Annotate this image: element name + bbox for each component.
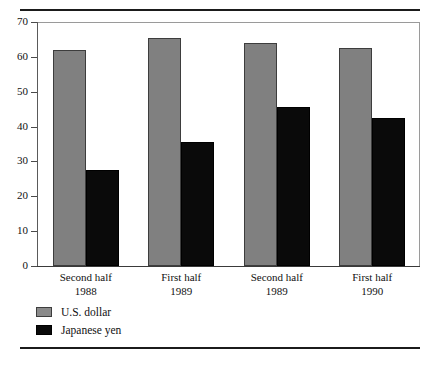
y-tick-mark bbox=[31, 161, 37, 162]
y-tick-mark bbox=[31, 92, 37, 93]
y-tick-mark bbox=[31, 22, 37, 23]
bar-us-dollar bbox=[53, 50, 86, 266]
x-category-label-period: First half bbox=[134, 270, 230, 284]
y-tick-label: 60 bbox=[4, 51, 28, 62]
bar-japanese-yen bbox=[372, 118, 405, 266]
bar-group bbox=[325, 22, 421, 266]
x-axis-category-labels: Second half1988First half1989Second half… bbox=[38, 270, 420, 304]
x-category-label-year: 1988 bbox=[38, 284, 134, 298]
bar-japanese-yen bbox=[181, 142, 214, 266]
legend-item-us-dollar: U.S. dollar bbox=[36, 303, 121, 321]
bar-group bbox=[38, 22, 134, 266]
x-category-label-period: First half bbox=[325, 270, 421, 284]
chart-legend: U.S. dollar Japanese yen bbox=[36, 303, 121, 339]
x-category-label: First half1990 bbox=[325, 270, 421, 298]
x-axis-line bbox=[37, 266, 420, 267]
y-tick-label: 40 bbox=[4, 121, 28, 132]
x-category-label-year: 1989 bbox=[134, 284, 230, 298]
legend-label-us-dollar: U.S. dollar bbox=[61, 306, 111, 318]
bar-chart-figure: 010203040506070 Second half1988First hal… bbox=[0, 0, 439, 366]
y-tick-mark bbox=[31, 196, 37, 197]
y-tick-mark bbox=[31, 266, 37, 267]
x-category-label-year: 1990 bbox=[325, 284, 421, 298]
x-category-label-period: Second half bbox=[229, 270, 325, 284]
y-tick-mark bbox=[31, 231, 37, 232]
y-tick-label: 70 bbox=[4, 16, 28, 27]
y-tick-label: 50 bbox=[4, 86, 28, 97]
gray-swatch-icon bbox=[36, 307, 52, 317]
bar-japanese-yen bbox=[277, 107, 310, 266]
legend-item-japanese-yen: Japanese yen bbox=[36, 321, 121, 339]
y-tick-label: 0 bbox=[4, 260, 28, 271]
bar-us-dollar bbox=[339, 48, 372, 266]
black-swatch-icon bbox=[36, 325, 52, 335]
bars-plot-area bbox=[38, 22, 420, 266]
x-category-label-period: Second half bbox=[38, 270, 134, 284]
y-tick-label: 20 bbox=[4, 190, 28, 201]
y-tick-mark bbox=[31, 57, 37, 58]
y-tick-label: 10 bbox=[4, 225, 28, 236]
top-rule-divider bbox=[20, 9, 420, 11]
x-category-label: Second half1988 bbox=[38, 270, 134, 298]
x-category-label: Second half1989 bbox=[229, 270, 325, 298]
bar-us-dollar bbox=[148, 38, 181, 266]
bar-us-dollar bbox=[244, 43, 277, 266]
bottom-rule-divider bbox=[20, 347, 420, 349]
x-category-label-year: 1989 bbox=[229, 284, 325, 298]
bar-group bbox=[229, 22, 325, 266]
bar-group bbox=[134, 22, 230, 266]
x-category-label: First half1989 bbox=[134, 270, 230, 298]
legend-label-japanese-yen: Japanese yen bbox=[61, 324, 121, 336]
bar-japanese-yen bbox=[86, 170, 119, 266]
y-tick-label: 30 bbox=[4, 155, 28, 166]
y-tick-mark bbox=[31, 127, 37, 128]
